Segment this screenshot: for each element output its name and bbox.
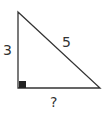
hypotenuse-label: 5 (62, 35, 71, 49)
horizontal-leg-label: ? (50, 95, 57, 109)
right-angle-marker (19, 81, 26, 88)
right-triangle (18, 12, 100, 88)
vertical-leg-label: 3 (3, 43, 12, 57)
triangle-diagram: 3 5 ? (0, 0, 105, 113)
